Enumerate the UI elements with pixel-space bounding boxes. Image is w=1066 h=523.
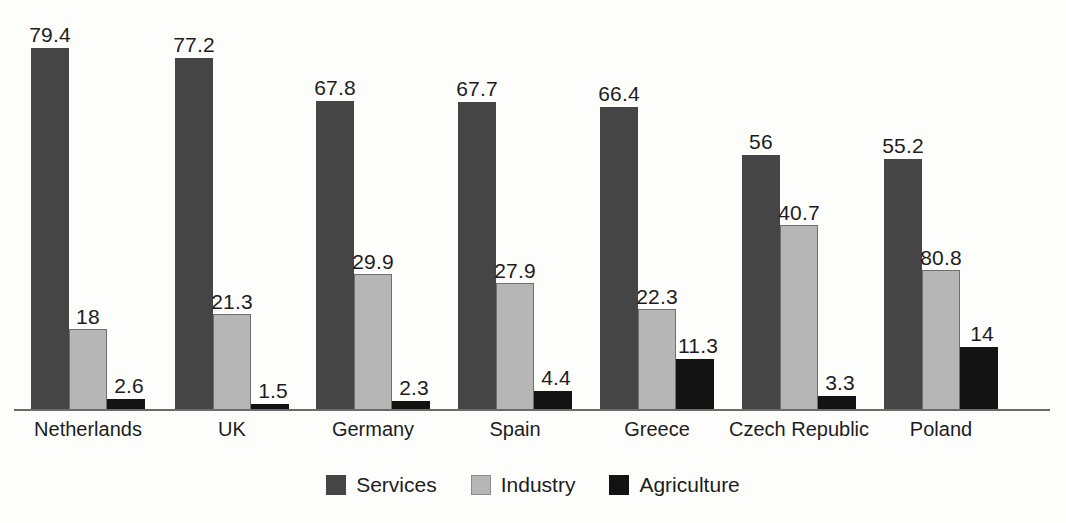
bar-industry[interactable]: 40.7: [780, 225, 818, 411]
bar-value-label: 67.8: [314, 77, 356, 98]
bar-services[interactable]: 67.7: [458, 102, 496, 412]
category-label-poland: Poland: [854, 414, 1028, 444]
bar-agriculture[interactable]: 14: [960, 347, 998, 411]
bar-services[interactable]: 56: [742, 155, 780, 411]
bar-value-label: 29.9: [352, 251, 394, 272]
category-axis-labels: NetherlandsUKGermanySpainGreeceCzech Rep…: [0, 414, 1066, 448]
bar-value-label: 55.2: [882, 135, 924, 156]
bar-agriculture[interactable]: 4.4: [534, 391, 572, 411]
bar-industry[interactable]: 29.9: [354, 274, 392, 411]
legend-item-industry[interactable]: Industry: [471, 474, 576, 495]
bar-group: 67.829.92.3: [316, 0, 430, 411]
bar-value-label: 2.3: [399, 377, 429, 398]
legend-label: Agriculture: [639, 474, 739, 495]
bar-chart: 79.4182.677.221.31.567.829.92.367.727.94…: [0, 0, 1066, 523]
legend-label: Services: [356, 474, 437, 495]
bar-value-label: 1.5: [258, 380, 288, 401]
bar-value-label: 14: [970, 323, 994, 344]
bar-value-label: 56: [749, 131, 773, 152]
bar-services[interactable]: 79.4: [31, 48, 69, 411]
legend-item-services[interactable]: Services: [326, 474, 437, 495]
bar-group: 79.4182.6: [31, 0, 145, 411]
bar-services[interactable]: 55.2: [884, 159, 922, 411]
bar-services[interactable]: 67.8: [316, 101, 354, 411]
bar-value-label: 40.7: [778, 202, 820, 223]
bar-industry[interactable]: 80.8: [922, 270, 960, 411]
bar-industry[interactable]: 22.3: [638, 309, 676, 411]
bar-value-label: 80.8: [920, 247, 962, 268]
bar-group: 66.422.311.3: [600, 0, 714, 411]
bar-services[interactable]: 77.2: [175, 58, 213, 411]
bar-value-label: 67.7: [456, 78, 498, 99]
bar-industry[interactable]: 27.9: [496, 283, 534, 411]
bar-value-label: 3.3: [825, 372, 855, 393]
services-swatch: [326, 475, 346, 495]
plot-area: 79.4182.677.221.31.567.829.92.367.727.94…: [0, 0, 1066, 411]
bar-value-label: 66.4: [598, 83, 640, 104]
bar-value-label: 4.4: [541, 367, 571, 388]
bar-value-label: 18: [76, 306, 100, 327]
bar-value-label: 2.6: [114, 375, 144, 396]
legend-label: Industry: [501, 474, 576, 495]
bar-value-label: 27.9: [494, 260, 536, 281]
bar-group: 77.221.31.5: [175, 0, 289, 411]
bar-services[interactable]: 66.4: [600, 107, 638, 411]
chart-legend: ServicesIndustryAgriculture: [0, 474, 1066, 495]
bar-industry[interactable]: 21.3: [213, 314, 251, 411]
bar-group: 5640.73.3: [742, 0, 856, 411]
bar-group: 67.727.94.4: [458, 0, 572, 411]
bar-agriculture[interactable]: 11.3: [676, 359, 714, 411]
bar-group: 55.280.814: [884, 0, 998, 411]
bar-value-label: 77.2: [173, 34, 215, 55]
bar-industry[interactable]: 18: [69, 329, 107, 411]
bar-value-label: 79.4: [29, 24, 71, 45]
bar-value-label: 21.3: [211, 291, 253, 312]
bar-value-label: 22.3: [636, 286, 678, 307]
bar-value-label: 11.3: [678, 335, 718, 356]
x-axis-line: [14, 409, 1050, 411]
industry-swatch: [471, 475, 491, 495]
legend-item-agriculture[interactable]: Agriculture: [609, 474, 739, 495]
agriculture-swatch: [609, 475, 629, 495]
